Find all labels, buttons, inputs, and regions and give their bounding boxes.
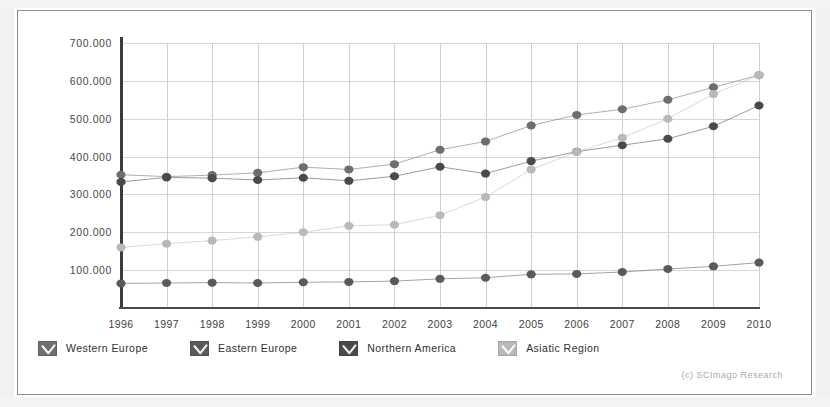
data-point [208, 279, 217, 287]
legend-item-asiatic-region[interactable]: Asiatic Region [498, 341, 599, 356]
figure-frame: 100.000200.000300.000400.000500.000600.0… [17, 10, 812, 395]
legend-item-label: Western Europe [66, 342, 148, 354]
data-point [435, 163, 444, 171]
x-axis-tick-label: 2002 [382, 318, 407, 330]
data-point [299, 228, 308, 236]
data-point [344, 177, 353, 185]
data-point [299, 278, 308, 286]
data-point [709, 262, 718, 270]
data-point [481, 193, 490, 201]
series-line [121, 75, 759, 176]
data-point [116, 279, 125, 287]
data-point [527, 270, 536, 278]
data-point [572, 111, 581, 119]
x-axis-tick-label: 2004 [473, 318, 498, 330]
x-axis-tick-label: 2009 [701, 318, 726, 330]
page-edge-bottom [0, 397, 830, 407]
data-point [527, 165, 536, 173]
legend-checkbox-swatch-icon[interactable] [498, 341, 517, 356]
gridline-vertical [759, 43, 760, 308]
legend-item-eastern-europe[interactable]: Eastern Europe [190, 341, 297, 356]
data-point [344, 165, 353, 173]
data-point [709, 90, 718, 98]
series-plot [121, 43, 759, 308]
y-axis-tick-label: 200.000 [70, 226, 112, 238]
legend-item-label: Asiatic Region [526, 342, 599, 354]
data-point [618, 105, 627, 113]
data-point [253, 169, 262, 177]
data-point [663, 115, 672, 123]
data-point [116, 243, 125, 251]
data-point [253, 233, 262, 241]
data-point [754, 101, 763, 109]
legend-item-northern-america[interactable]: Northern America [339, 341, 456, 356]
data-point [435, 275, 444, 283]
x-axis-tick-label: 2005 [519, 318, 544, 330]
x-axis-tick-label: 1998 [200, 318, 225, 330]
data-point [481, 170, 490, 178]
data-point [527, 122, 536, 130]
legend-item-label: Northern America [367, 342, 456, 354]
data-point [299, 163, 308, 171]
data-point [116, 171, 125, 179]
data-point [618, 141, 627, 149]
copyright-credit: (c) SCImago Research [681, 370, 783, 380]
data-point [481, 274, 490, 282]
data-point [299, 174, 308, 182]
x-axis-tick-label: 1997 [154, 318, 179, 330]
data-point [435, 211, 444, 219]
y-axis-tick-label: 700.000 [70, 37, 112, 49]
data-point [390, 160, 399, 168]
data-point [618, 134, 627, 142]
y-axis-tick-label: 600.000 [70, 75, 112, 87]
x-axis-tick-label: 1996 [109, 318, 134, 330]
data-point [208, 237, 217, 245]
plot-area: 100.000200.000300.000400.000500.000600.0… [121, 43, 759, 308]
page-edge-left [0, 0, 14, 407]
y-axis-tick-label: 100.000 [70, 264, 112, 276]
legend-checkbox-swatch-icon[interactable] [190, 341, 209, 356]
legend-item-label: Eastern Europe [218, 342, 297, 354]
data-point [754, 71, 763, 79]
x-axis-tick-label: 2010 [747, 318, 772, 330]
data-point [572, 148, 581, 156]
data-point [572, 270, 581, 278]
y-axis-tick-label: 400.000 [70, 151, 112, 163]
data-point [481, 137, 490, 145]
x-axis-tick-label: 2006 [564, 318, 589, 330]
y-axis-tick-label: 500.000 [70, 113, 112, 125]
x-axis-tick-label: 2003 [428, 318, 453, 330]
page-edge-top [0, 0, 830, 8]
legend-checkbox-swatch-icon[interactable] [38, 341, 57, 356]
data-point [344, 278, 353, 286]
chart-page: 100.000200.000300.000400.000500.000600.0… [0, 0, 830, 407]
data-point [390, 172, 399, 180]
data-point [390, 221, 399, 229]
data-point [162, 240, 171, 248]
page-edge-right [816, 0, 830, 407]
data-point [435, 146, 444, 154]
legend-checkbox-swatch-icon[interactable] [339, 341, 358, 356]
x-axis-tick-label: 2007 [610, 318, 635, 330]
data-point [390, 277, 399, 285]
data-point [663, 135, 672, 143]
data-point [253, 176, 262, 184]
data-point [663, 265, 672, 273]
data-point [344, 222, 353, 230]
legend-item-western-europe[interactable]: Western Europe [38, 341, 148, 356]
data-point [754, 259, 763, 267]
series-eastern-europe [116, 259, 763, 288]
data-point [253, 279, 262, 287]
data-point [162, 279, 171, 287]
x-axis-tick-label: 2000 [291, 318, 316, 330]
x-axis-tick-label: 2008 [655, 318, 680, 330]
data-point [527, 157, 536, 165]
y-axis-tick-label: 300.000 [70, 188, 112, 200]
data-point [709, 122, 718, 130]
x-axis-tick-label: 1999 [245, 318, 270, 330]
data-point [208, 174, 217, 182]
chart-legend: Western EuropeEastern EuropeNorthern Ame… [38, 336, 798, 360]
data-point [162, 173, 171, 181]
data-point [663, 96, 672, 104]
data-point [618, 268, 627, 276]
